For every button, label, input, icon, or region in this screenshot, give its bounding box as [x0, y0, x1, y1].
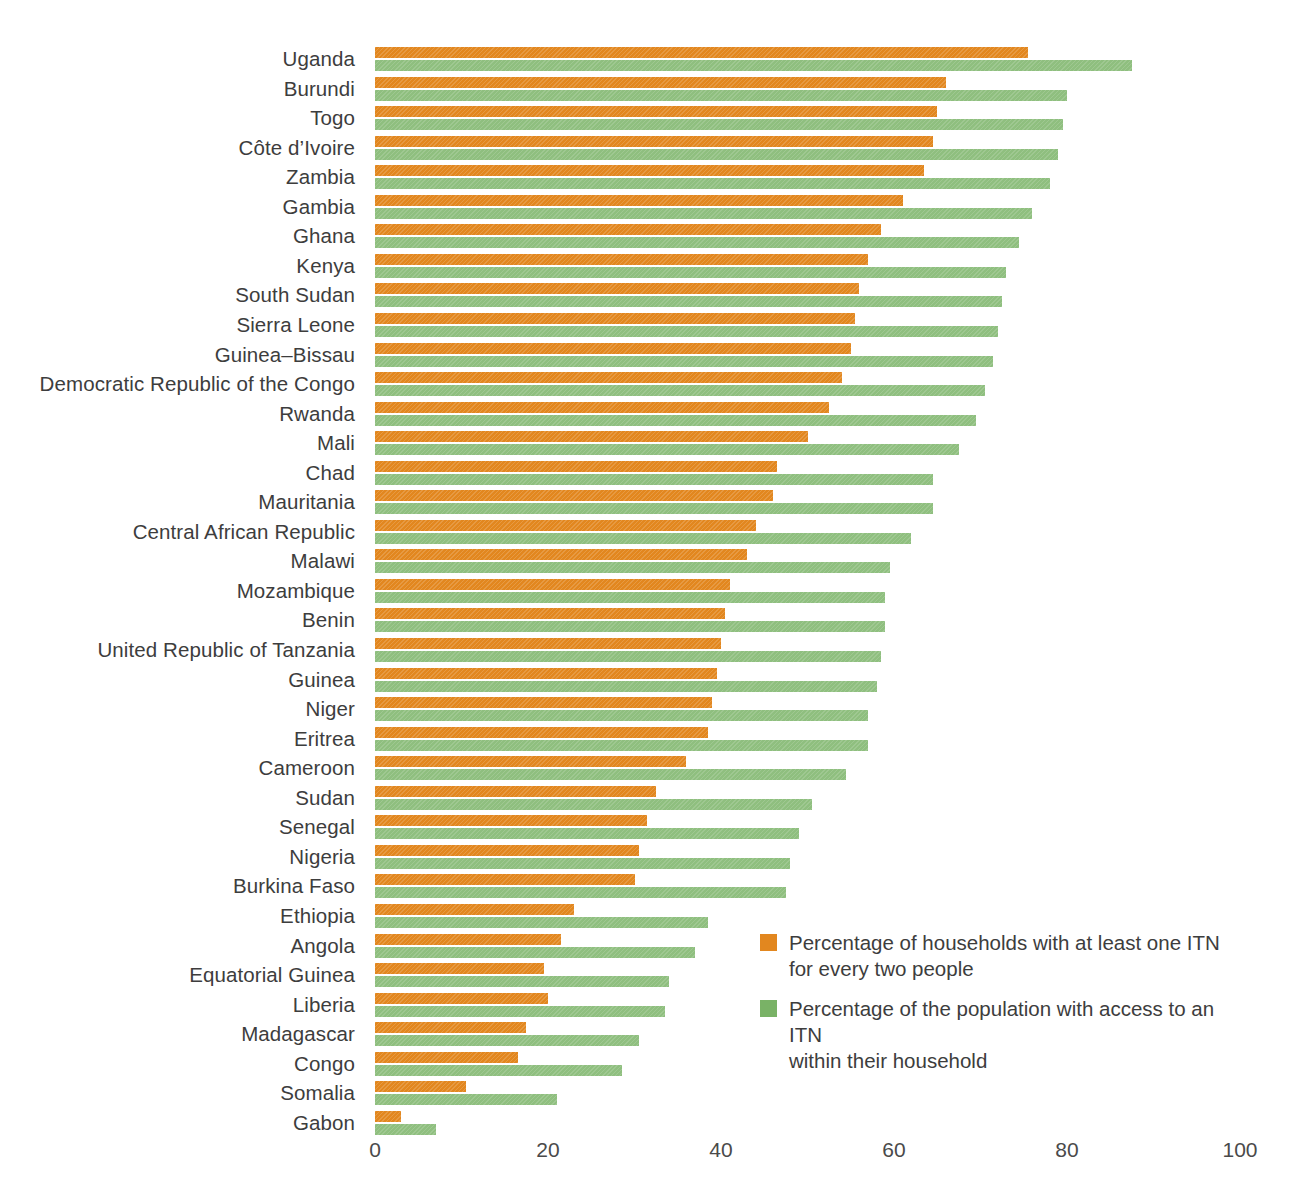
chart-row: South Sudan	[0, 281, 1295, 310]
chart-row: Democratic Republic of the Congo	[0, 370, 1295, 399]
bar-population-access	[375, 178, 1050, 189]
bar-households-itn	[375, 668, 717, 679]
country-label: Gambia	[0, 193, 355, 222]
bar-population-access	[375, 740, 868, 751]
legend-label-line2: within their household	[789, 1049, 987, 1072]
bar-population-access	[375, 592, 885, 603]
bar-households-itn	[375, 47, 1028, 58]
x-axis-tick: 100	[1222, 1138, 1257, 1162]
bar-population-access	[375, 976, 669, 987]
bar-households-itn	[375, 490, 773, 501]
chart-row: Rwanda	[0, 400, 1295, 429]
bar-households-itn	[375, 402, 829, 413]
country-label: Senegal	[0, 813, 355, 842]
bar-population-access	[375, 60, 1132, 71]
itn-access-bar-chart: UgandaBurundiTogoCôte d’IvoireZambiaGamb…	[0, 0, 1295, 1187]
bar-households-itn	[375, 313, 855, 324]
country-label: Sierra Leone	[0, 311, 355, 340]
bar-population-access	[375, 621, 885, 632]
chart-row: Zambia	[0, 163, 1295, 192]
bar-population-access	[375, 917, 708, 928]
bar-households-itn	[375, 1081, 466, 1092]
chart-row: Niger	[0, 695, 1295, 724]
chart-row: Gambia	[0, 193, 1295, 222]
country-label: Burundi	[0, 75, 355, 104]
bar-population-access	[375, 119, 1063, 130]
chart-row: Guinea–Bissau	[0, 341, 1295, 370]
country-label: Uganda	[0, 45, 355, 74]
bar-population-access	[375, 858, 790, 869]
bar-population-access	[375, 474, 933, 485]
bar-households-itn	[375, 579, 730, 590]
bar-population-access	[375, 887, 786, 898]
chart-row: Burundi	[0, 75, 1295, 104]
country-label: Guinea–Bissau	[0, 341, 355, 370]
bar-population-access	[375, 681, 877, 692]
bar-households-itn	[375, 549, 747, 560]
bar-population-access	[375, 444, 959, 455]
x-axis-tick: 80	[1055, 1138, 1078, 1162]
country-label: Nigeria	[0, 843, 355, 872]
country-label: Rwanda	[0, 400, 355, 429]
bar-population-access	[375, 651, 881, 662]
bar-population-access	[375, 533, 911, 544]
country-label: Malawi	[0, 547, 355, 576]
country-label: Benin	[0, 606, 355, 635]
country-label: Gabon	[0, 1109, 355, 1138]
bar-households-itn	[375, 697, 712, 708]
chart-row: Kenya	[0, 252, 1295, 281]
bar-households-itn	[375, 1052, 518, 1063]
bar-population-access	[375, 503, 933, 514]
bar-population-access	[375, 769, 846, 780]
bar-population-access	[375, 1006, 665, 1017]
chart-row: Chad	[0, 459, 1295, 488]
bar-households-itn	[375, 963, 544, 974]
chart-row: Nigeria	[0, 843, 1295, 872]
country-label: United Republic of Tanzania	[0, 636, 355, 665]
bar-households-itn	[375, 756, 686, 767]
country-label: Chad	[0, 459, 355, 488]
bar-population-access	[375, 208, 1032, 219]
x-axis: 020406080100	[0, 1138, 1295, 1178]
chart-row: Guinea	[0, 666, 1295, 695]
bar-households-itn	[375, 106, 937, 117]
country-label: Somalia	[0, 1079, 355, 1108]
bar-households-itn	[375, 224, 881, 235]
bar-households-itn	[375, 815, 647, 826]
country-label: Côte d’Ivoire	[0, 134, 355, 163]
bar-households-itn	[375, 993, 548, 1004]
bar-households-itn	[375, 786, 656, 797]
bar-population-access	[375, 90, 1067, 101]
country-label: Equatorial Guinea	[0, 961, 355, 990]
bar-households-itn	[375, 520, 756, 531]
bar-population-access	[375, 947, 695, 958]
country-label: Democratic Republic of the Congo	[0, 370, 355, 399]
bar-population-access	[375, 296, 1002, 307]
bar-households-itn	[375, 461, 777, 472]
bar-population-access	[375, 828, 799, 839]
bar-households-itn	[375, 77, 946, 88]
country-label: Congo	[0, 1050, 355, 1079]
bar-population-access	[375, 326, 998, 337]
chart-row: Cameroon	[0, 754, 1295, 783]
country-label: Cameroon	[0, 754, 355, 783]
chart-row: Mali	[0, 429, 1295, 458]
x-axis-tick: 40	[709, 1138, 732, 1162]
country-label: Sudan	[0, 784, 355, 813]
chart-row: Mozambique	[0, 577, 1295, 606]
country-label: Togo	[0, 104, 355, 133]
country-label: Kenya	[0, 252, 355, 281]
bar-population-access	[375, 799, 812, 810]
bar-households-itn	[375, 727, 708, 738]
chart-row: Eritrea	[0, 725, 1295, 754]
x-axis-tick: 0	[369, 1138, 381, 1162]
legend-label-line2: for every two people	[789, 957, 974, 980]
legend-label-line1: Percentage of the population with access…	[789, 997, 1214, 1046]
bar-population-access	[375, 267, 1006, 278]
legend-item: Percentage of households with at least o…	[760, 930, 1260, 982]
chart-row: Ghana	[0, 222, 1295, 251]
bar-population-access	[375, 562, 890, 573]
country-label: Mauritania	[0, 488, 355, 517]
bar-households-itn	[375, 165, 924, 176]
chart-row: Sudan	[0, 784, 1295, 813]
